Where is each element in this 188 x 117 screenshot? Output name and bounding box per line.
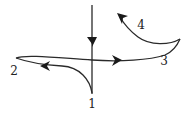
label-3: 3 [160, 54, 168, 68]
down-arrow-icon [87, 37, 97, 47]
label-4: 4 [137, 18, 145, 32]
path-2-to-3 [16, 39, 180, 61]
label-1: 1 [88, 97, 96, 111]
left-arrow-icon [40, 61, 50, 71]
up-left-arrow-icon [117, 13, 128, 24]
label-2: 2 [10, 64, 18, 78]
path-3-to-4 [120, 17, 180, 44]
diagram-canvas: 1 2 3 4 [0, 0, 188, 117]
path-1-to-2 [16, 58, 92, 93]
